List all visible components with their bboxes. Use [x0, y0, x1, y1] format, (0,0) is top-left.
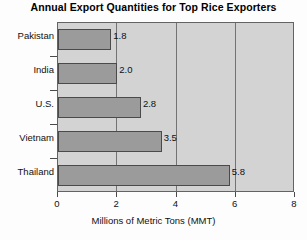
y-axis-tick: [50, 56, 57, 57]
bar-row: [58, 57, 295, 91]
bar-row: [58, 159, 295, 193]
x-axis-tick: [116, 192, 117, 197]
bars: [58, 23, 293, 191]
bar: [58, 97, 141, 118]
bar: [58, 29, 111, 50]
category-label: U.S.: [0, 98, 54, 109]
bar-value-label: 1.8: [113, 30, 126, 41]
bar-row: [58, 23, 295, 57]
bar-chart: Annual Export Quantities for Top Rice Ex…: [0, 0, 307, 240]
y-axis-tick: [50, 158, 57, 159]
y-axis-tick: [50, 90, 57, 91]
category-label: Pakistan: [0, 30, 54, 41]
x-axis-tick: [176, 192, 177, 197]
x-axis-tick: [235, 192, 236, 197]
bar-value-label: 2.0: [119, 64, 132, 75]
x-axis-tick-label: 4: [161, 198, 191, 209]
x-axis-tick: [57, 192, 58, 197]
x-axis-tick-label: 8: [279, 198, 307, 209]
bar-row: [58, 91, 295, 125]
x-axis-tick-label: 6: [220, 198, 250, 209]
chart-title: Annual Export Quantities for Top Rice Ex…: [0, 1, 307, 13]
bar: [58, 63, 117, 84]
plot-area: [57, 22, 294, 192]
x-axis-tick-label: 0: [42, 198, 72, 209]
category-label: Thailand: [0, 166, 54, 177]
x-axis-tick: [294, 192, 295, 197]
category-label: India: [0, 64, 54, 75]
bar-value-label: 2.8: [143, 98, 156, 109]
bar-value-label: 3.5: [164, 132, 177, 143]
category-label: Vietnam: [0, 132, 54, 143]
y-axis-tick: [50, 124, 57, 125]
x-axis-title: Millions of Metric Tons (MMT): [0, 215, 307, 226]
bar: [58, 131, 162, 152]
x-axis-tick-label: 2: [101, 198, 131, 209]
bar-value-label: 5.8: [232, 166, 245, 177]
bar: [58, 165, 230, 186]
